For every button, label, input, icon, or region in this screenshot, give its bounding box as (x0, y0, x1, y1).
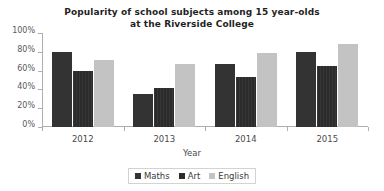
bar-english-2013 (175, 64, 195, 127)
legend-swatch-icon (209, 173, 215, 179)
legend-item-label: Art (188, 171, 201, 181)
chart-title: Popularity of school subjects among 15 y… (0, 6, 384, 30)
y-axis-tick-mark (38, 52, 42, 53)
bar-maths-2014 (215, 64, 235, 127)
x-axis-tick-mark (368, 127, 369, 131)
y-axis-tick-mark (38, 89, 42, 90)
y-axis-tick-label: 40% (17, 83, 35, 91)
x-axis-tick-label: 2015 (287, 134, 369, 144)
bar-maths-2015 (296, 52, 316, 127)
x-axis-title: Year (0, 148, 384, 158)
legend-swatch-icon (179, 173, 185, 179)
bar-maths-2012 (52, 52, 72, 127)
x-axis-tick-mark (287, 127, 288, 131)
bar-group (52, 33, 114, 127)
chart-title-line-1: Popularity of school subjects among 15 y… (64, 7, 319, 17)
y-axis-tick-label: 20% (17, 102, 35, 110)
x-axis-tick-label: 2012 (42, 134, 124, 144)
x-axis-tick-mark (205, 127, 206, 131)
bar-english-2015 (338, 44, 358, 127)
chart-title-line-2: at the Riverside College (0, 18, 384, 30)
chart-legend: MathsArtEnglish (128, 168, 256, 184)
y-axis-tick-mark (38, 33, 42, 34)
bar-chart: Popularity of school subjects among 15 y… (0, 0, 384, 191)
y-axis-line (42, 33, 43, 127)
bar-group (133, 33, 195, 127)
x-axis-tick-mark (42, 127, 43, 131)
legend-item-art[interactable]: Art (179, 171, 201, 181)
bar-english-2012 (94, 60, 114, 127)
y-axis-tick-label: 80% (17, 46, 35, 54)
legend-item-english[interactable]: English (209, 171, 249, 181)
x-axis-tick-label: 2013 (124, 134, 206, 144)
legend-item-label: Maths (144, 171, 170, 181)
y-axis-tick-label: 60% (17, 65, 35, 73)
legend-item-label: English (218, 171, 249, 181)
y-axis-tick-label: 100% (12, 27, 35, 35)
y-axis-tick-label: 0% (22, 121, 35, 129)
x-axis-tick-label: 2014 (205, 134, 287, 144)
bar-group (296, 33, 358, 127)
bar-art-2012 (73, 71, 93, 127)
x-axis-tick-mark (124, 127, 125, 131)
bar-group (215, 33, 277, 127)
plot-area: 100%80%60%40%20%0%2012201320142015 (42, 33, 368, 127)
bar-art-2014 (236, 77, 256, 127)
legend-swatch-icon (135, 173, 141, 179)
y-axis-tick-mark (38, 71, 42, 72)
legend-item-maths[interactable]: Maths (135, 171, 170, 181)
bar-maths-2013 (133, 94, 153, 127)
bar-art-2015 (317, 66, 337, 127)
bar-english-2014 (257, 53, 277, 127)
bar-art-2013 (154, 88, 174, 127)
y-axis-tick-mark (38, 108, 42, 109)
